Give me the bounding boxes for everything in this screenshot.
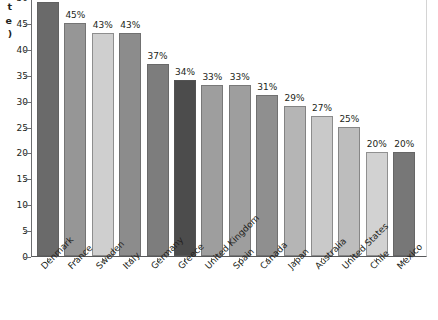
bar-value-label: 33% <box>230 73 250 82</box>
bar-value-label: 34% <box>175 68 195 77</box>
bar-chart: t e ) 05101520253035404550 49%45%43%43%3… <box>0 0 438 320</box>
y-axis-tick-mark <box>24 76 31 77</box>
bar-value-label: 37% <box>148 52 168 61</box>
y-axis-tick-mark <box>24 179 31 180</box>
y-axis-tick-mark <box>24 50 31 51</box>
x-axis-category-labels: DenmarkFranceSwedenItalyGermanyGreeceUni… <box>31 258 438 320</box>
bar <box>284 106 306 256</box>
bar <box>92 33 114 256</box>
bar <box>37 2 59 256</box>
plot-area: 49%45%43%43%37%34%33%33%31%29%27%25%20%2… <box>31 0 427 257</box>
bar <box>393 152 415 256</box>
y-axis-tick-mark <box>24 128 31 129</box>
bar <box>64 23 86 256</box>
y-axis-tick-labels: 05101520253035404550 <box>0 0 30 320</box>
y-axis-tick-mark <box>24 24 31 25</box>
bar-value-label: 45% <box>65 11 85 20</box>
bar <box>174 80 196 256</box>
bar-value-label: 29% <box>285 94 305 103</box>
bar-value-label: 43% <box>120 21 140 30</box>
bar <box>119 33 141 256</box>
bar-value-label: 31% <box>257 83 277 92</box>
bar-value-label: 20% <box>394 140 414 149</box>
bar <box>201 85 223 256</box>
bar-value-label: 20% <box>367 140 387 149</box>
y-axis-tick-mark <box>24 102 31 103</box>
bar <box>147 64 169 256</box>
bar-value-label: 43% <box>93 21 113 30</box>
y-axis-tick-label: 50 <box>17 0 28 3</box>
y-axis-tick-mark <box>24 153 31 154</box>
bar <box>311 116 333 256</box>
y-axis-tick-mark <box>24 231 31 232</box>
bar-value-label: 27% <box>312 104 332 113</box>
bars-layer: 49%45%43%43%37%34%33%33%31%29%27%25%20%2… <box>32 0 426 256</box>
y-axis-tick-mark <box>24 205 31 206</box>
y-axis-tick-mark <box>24 257 31 258</box>
bar <box>256 95 278 256</box>
bar-value-label: 33% <box>202 73 222 82</box>
bar-value-label: 25% <box>339 115 359 124</box>
